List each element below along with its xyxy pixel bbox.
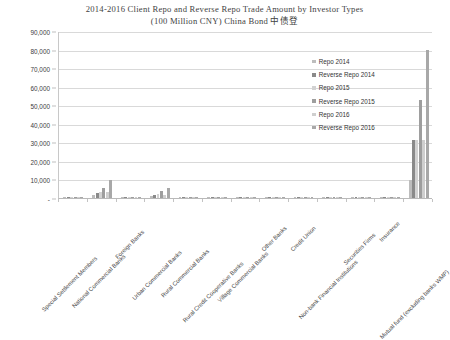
x-axis-tick-mark <box>58 199 59 202</box>
bar-cluster <box>145 32 174 198</box>
y-axis-tick-label: 10,000 <box>30 177 50 184</box>
bar-cluster <box>203 32 232 198</box>
y-axis-tick-label: 40,000 <box>30 121 50 128</box>
y-axis-tick-label: 80,000 <box>30 47 50 54</box>
x-axis-tick-mark <box>144 199 145 202</box>
bar <box>397 197 400 198</box>
y-axis-tick-label: 50,000 <box>30 103 50 110</box>
legend-label: Repo 2014 <box>319 58 350 65</box>
x-axis-tick-mark <box>432 199 433 202</box>
chart-legend: Repo 2014Reverse Repo 2014Repo 2015Rever… <box>312 55 444 134</box>
x-axis: Special Settlement MembersNational Comme… <box>58 199 432 302</box>
x-axis-tick-mark <box>87 199 88 202</box>
y-axis: 90,00080,00070,00060,00050,00040,00030,0… <box>0 32 56 199</box>
x-axis-tick-mark <box>202 199 203 202</box>
legend-item[interactable]: Reverse Repo 2016 <box>312 121 444 134</box>
y-axis-tick-mark <box>52 199 56 200</box>
y-axis-tick-mark <box>52 124 56 125</box>
x-axis-tick-label: Foreign Banks <box>114 229 145 260</box>
y-axis-tick-label: - <box>48 196 50 203</box>
bar <box>311 197 314 198</box>
x-axis-tick-label: Rural Commercial Banks <box>160 248 210 298</box>
legend-item[interactable]: Repo 2014 <box>312 55 444 68</box>
bar <box>80 197 83 198</box>
x-axis-tick-mark <box>317 199 318 202</box>
bar-cluster <box>174 32 203 198</box>
legend-swatch-icon <box>312 60 316 64</box>
legend-label: Reverse Repo 2016 <box>319 124 375 131</box>
y-axis-tick-mark <box>52 87 56 88</box>
legend-label: Reverse Repo 2015 <box>319 98 375 105</box>
y-axis-tick-label: 70,000 <box>30 66 50 73</box>
y-axis-tick-mark <box>52 106 56 107</box>
bar-cluster <box>232 32 261 198</box>
x-axis-tick-mark <box>346 199 347 202</box>
bar <box>138 197 141 198</box>
y-axis-tick-mark <box>52 69 56 70</box>
chart-title: 2014-2016 Client Repo and Reverse Repo T… <box>0 4 449 27</box>
x-axis-tick-label: Non-bank Financial Institutions <box>298 259 359 320</box>
legend-swatch-icon <box>312 86 316 90</box>
x-axis-tick-mark <box>288 199 289 202</box>
legend-label: Repo 2015 <box>319 84 350 91</box>
bar <box>224 197 227 198</box>
y-axis-tick-label: 90,000 <box>30 29 50 36</box>
y-axis-tick-label: 60,000 <box>30 84 50 91</box>
bar <box>167 188 170 198</box>
bar <box>368 197 371 198</box>
legend-swatch-icon <box>312 73 316 77</box>
x-axis-tick-mark <box>403 199 404 202</box>
x-axis-tick-label: Insurance <box>378 220 401 243</box>
bar-cluster <box>59 32 88 198</box>
x-axis-tick-mark <box>259 199 260 202</box>
y-axis-tick-mark <box>52 180 56 181</box>
legend-item[interactable]: Reverse Repo 2014 <box>312 68 444 81</box>
bar-cluster <box>117 32 146 198</box>
y-axis-tick-label: 30,000 <box>30 140 50 147</box>
chart-title-line-2: (100 Million CNY) China Bond 中债登 <box>0 16 449 28</box>
legend-swatch-icon <box>312 113 316 117</box>
bar <box>109 180 112 198</box>
y-axis-tick-mark <box>52 50 56 51</box>
y-axis-tick-mark <box>52 143 56 144</box>
x-axis-tick-mark <box>116 199 117 202</box>
legend-swatch-icon <box>312 126 316 130</box>
legend-label: Reverse Repo 2014 <box>319 71 375 78</box>
bar <box>339 197 342 198</box>
y-axis-tick-mark <box>52 161 56 162</box>
legend-label: Repo 2016 <box>319 111 350 118</box>
x-axis-tick-mark <box>374 199 375 202</box>
x-axis-tick-label: Securities Firms <box>343 232 377 266</box>
x-axis-tick-label: Mutual fund (excluding banks WMP) <box>378 269 449 340</box>
chart-title-line-1: 2014-2016 Client Repo and Reverse Repo T… <box>0 4 449 16</box>
x-axis-tick-label: National Commercial Banks <box>71 253 127 309</box>
x-axis-tick-label: Other Banks <box>260 225 287 252</box>
bar <box>253 197 256 198</box>
x-axis-tick-label: Credit Union <box>289 225 316 252</box>
legend-item[interactable]: Repo 2015 <box>312 81 444 94</box>
y-axis-tick-mark <box>52 32 56 33</box>
bar-cluster <box>88 32 117 198</box>
x-axis-tick-mark <box>231 199 232 202</box>
legend-item[interactable]: Repo 2016 <box>312 108 444 121</box>
legend-swatch-icon <box>312 99 316 103</box>
legend-item[interactable]: Reverse Repo 2015 <box>312 95 444 108</box>
x-axis-tick-mark <box>173 199 174 202</box>
y-axis-tick-label: 20,000 <box>30 158 50 165</box>
bar <box>282 197 285 198</box>
bar-cluster <box>260 32 289 198</box>
x-axis-tick-label: Urban Commercial Banks <box>131 249 183 301</box>
bar <box>195 197 198 198</box>
